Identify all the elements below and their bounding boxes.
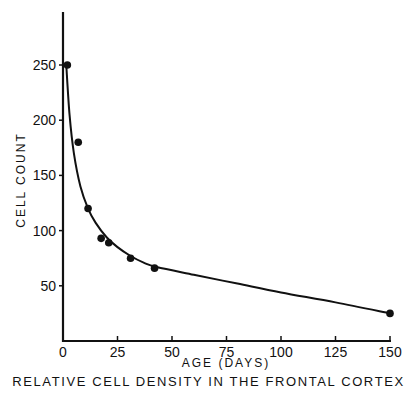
data-point: [105, 239, 113, 247]
y-tick-label: 250: [33, 57, 57, 73]
curve-path: [66, 65, 390, 313]
y-tick-label: 100: [33, 223, 57, 239]
y-tick-label: 50: [40, 278, 56, 294]
x-tick-label: 50: [164, 344, 180, 360]
chart-plot: 025507510012515050100150200250 AGE (DAYS…: [0, 0, 417, 400]
x-tick-label: 125: [324, 344, 348, 360]
y-tick-label: 200: [33, 112, 57, 128]
data-point: [386, 310, 394, 318]
data-points: [64, 61, 394, 317]
data-point: [127, 254, 135, 262]
axes: 025507510012515050100150200250: [33, 12, 402, 360]
fitted-curve: [66, 65, 390, 313]
figure-caption: RELATIVE CELL DENSITY IN THE FRONTAL COR…: [0, 374, 417, 389]
data-point: [74, 138, 82, 146]
x-tick-label: 25: [110, 344, 126, 360]
x-axis-label: AGE (DAYS): [182, 356, 270, 370]
data-point: [64, 61, 72, 69]
x-tick-label: 0: [59, 344, 67, 360]
x-tick-label: 100: [269, 344, 293, 360]
x-tick-label: 150: [378, 344, 402, 360]
y-axis-label: CELL COUNT: [14, 132, 28, 228]
data-point: [97, 235, 105, 243]
data-point: [151, 264, 159, 272]
y-tick-label: 150: [33, 167, 57, 183]
data-point: [84, 205, 92, 213]
